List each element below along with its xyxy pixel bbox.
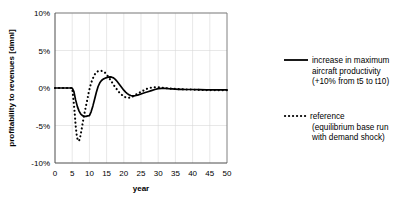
- x-tick-label-5: 5: [70, 169, 75, 178]
- x-tick-label-30: 30: [154, 169, 163, 178]
- legend-label-reference-line1: reference: [310, 112, 345, 121]
- y-axis-title: profitability to revenues [dmnl]: [7, 29, 16, 147]
- x-tick-label-20: 20: [119, 169, 128, 178]
- legend-item-productivity[interactable]: increase in maximum aircraft productivit…: [284, 56, 390, 86]
- x-tick-label-25: 25: [137, 169, 146, 178]
- legend-item-reference[interactable]: reference (equilibrium base run with dem…: [285, 112, 389, 142]
- x-tick-label-50: 50: [223, 169, 232, 178]
- legend-label-productivity-line3: (+10% from t5 to t10): [312, 77, 389, 86]
- chart-figure: 10% 5% 0% -5% -10% 0 5 10 15 20 25 30 35…: [0, 0, 415, 204]
- y-tick-label-0: 0%: [38, 84, 50, 93]
- x-tick-labels: 0 5 10 15 20 25 30 35 40 45 50: [53, 169, 232, 178]
- x-tick-label-35: 35: [171, 169, 180, 178]
- x-tick-label-40: 40: [188, 169, 197, 178]
- x-tick-label-0: 0: [53, 169, 58, 178]
- legend-label-reference-line2: (equilibrium base run: [312, 123, 389, 132]
- y-tick-label-5: 5%: [38, 47, 50, 56]
- x-tick-label-10: 10: [85, 169, 94, 178]
- x-tick-label-15: 15: [102, 169, 111, 178]
- legend-label-productivity-line1: increase in maximum: [312, 56, 390, 65]
- legend-label-productivity-line2: aircraft productivity: [312, 67, 382, 76]
- x-tick-label-45: 45: [205, 169, 214, 178]
- y-tick-labels: 10% 5% 0% -5% -10%: [31, 9, 50, 168]
- legend-label-reference-line3: with demand shock): [311, 133, 385, 142]
- y-tick-label-neg10: -10%: [31, 159, 50, 168]
- chart-svg: 10% 5% 0% -5% -10% 0 5 10 15 20 25 30 35…: [0, 0, 415, 204]
- x-axis-title: year: [133, 184, 149, 193]
- chart-legend: increase in maximum aircraft productivit…: [284, 56, 390, 142]
- y-tick-label-10: 10%: [34, 9, 50, 18]
- y-tick-label-neg5: -5%: [36, 122, 50, 131]
